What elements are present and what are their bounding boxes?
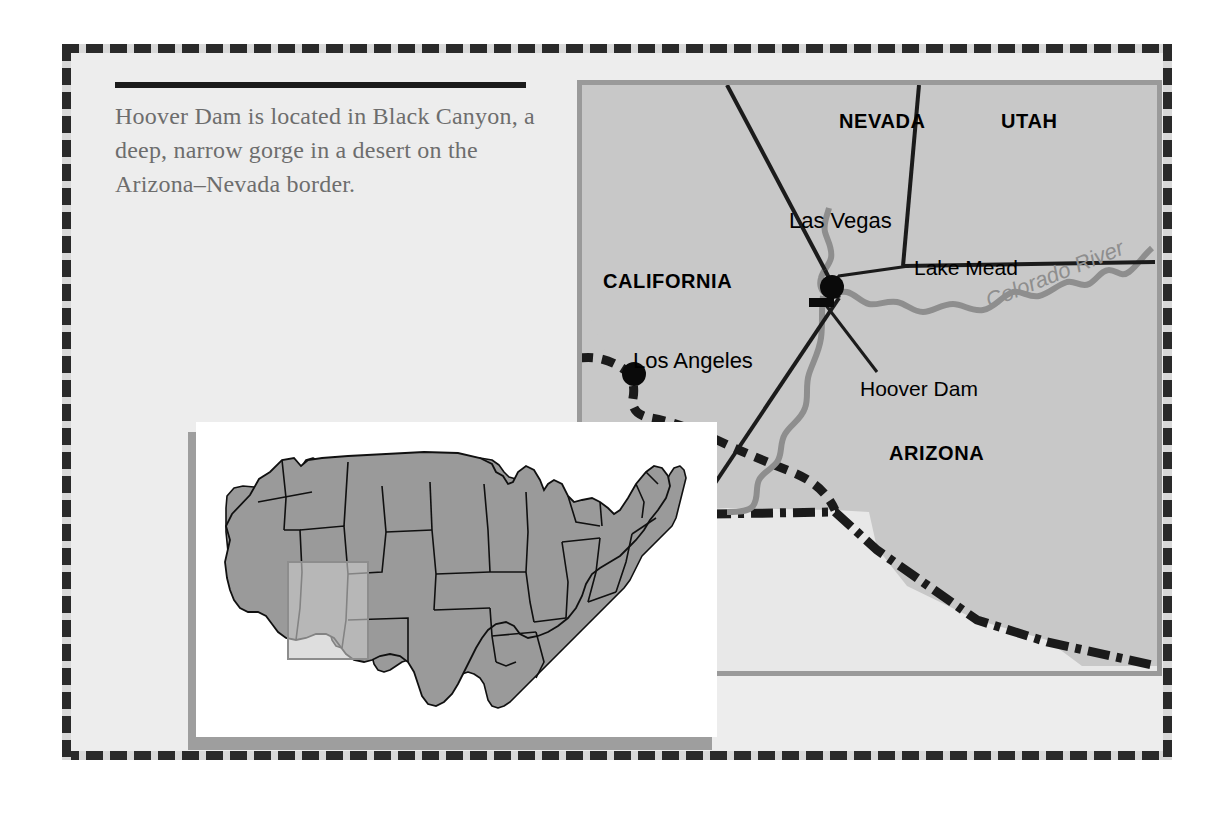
caption-rule — [115, 82, 526, 88]
inset-highlight-region — [288, 562, 368, 659]
inset-locator-map — [196, 422, 717, 737]
state-label-arizona: ARIZONA — [889, 442, 984, 465]
feature-label-lake-mead: Lake Mead — [914, 256, 1018, 280]
frame-bottom-edge — [62, 751, 1172, 760]
feature-label-hoover-dam: Hoover Dam — [860, 376, 960, 401]
city-label-las-vegas: Las Vegas — [789, 208, 879, 233]
city-label-los-angeles-text: Los Angeles — [633, 348, 753, 373]
state-label-nevada: NEVADA — [839, 110, 926, 133]
state-label-utah: UTAH — [1001, 110, 1057, 133]
inset-map-graphics — [196, 422, 717, 737]
hoover-dam-map-figure: Hoover Dam is located in Black Canyon, a… — [0, 0, 1231, 830]
city-label-las-vegas-text: Las Vegas — [789, 208, 892, 233]
frame-left-edge — [62, 44, 71, 760]
figure-caption: Hoover Dam is located in Black Canyon, a… — [115, 99, 535, 201]
city-label-los-angeles: Los Angeles — [633, 348, 743, 373]
frame-top-edge — [62, 44, 1172, 53]
state-label-california: CALIFORNIA — [603, 270, 732, 293]
